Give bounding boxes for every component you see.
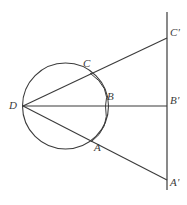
point-label-a-prime: A' <box>170 177 179 188</box>
point-label-d: D <box>9 100 17 111</box>
geometry-figure: D A B C A' B' C' <box>0 0 187 205</box>
point-label-b-prime: B' <box>170 95 179 106</box>
point-label-b: B <box>107 91 114 102</box>
point-label-c-prime: C' <box>170 27 180 38</box>
ray-d-c-cprime <box>23 38 167 106</box>
geometry-canvas <box>0 0 187 205</box>
point-label-c: C <box>83 58 91 69</box>
point-label-a: A <box>94 142 101 153</box>
